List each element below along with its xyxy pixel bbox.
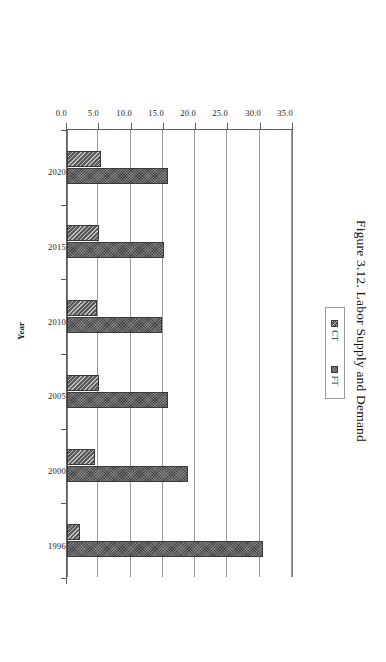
value-axis-tick xyxy=(292,123,293,130)
value-axis-tick-label: 25.0 xyxy=(227,71,228,121)
value-axis-tick-label: 10.0 xyxy=(131,71,132,121)
value-axis-tick-label-text: 35.0 xyxy=(277,108,293,118)
bar-group xyxy=(67,503,293,578)
value-axis-tick-label-text: 25.0 xyxy=(213,108,229,118)
category-axis-tick xyxy=(61,503,67,504)
figure-caption: Figure 3.12. Labor Supply and Demand xyxy=(350,0,372,662)
value-axis-tick-label: 15.0 xyxy=(163,71,164,121)
bar-ct-2015 xyxy=(67,225,99,241)
value-axis-tick-label-text: 20.0 xyxy=(180,108,196,118)
bar-ft-2005 xyxy=(67,392,168,408)
category-axis-tick xyxy=(61,130,67,131)
chart-plot-area: 0.05.010.015.020.025.030.035.0 202020152… xyxy=(5,71,305,591)
category-axis-tick xyxy=(61,578,67,579)
category-axis-tick xyxy=(61,354,67,355)
value-axis-tick-label: 30.0 xyxy=(260,71,261,121)
category-label-2020: 2020 xyxy=(48,167,66,177)
bar-ft-2020 xyxy=(67,168,168,184)
figure-caption-text: Figure 3.12. Labor Supply and Demand xyxy=(353,220,369,442)
value-axis-tick xyxy=(98,123,99,130)
bar-group xyxy=(67,354,293,429)
value-axis-tick xyxy=(163,123,164,130)
bar-ct-2010 xyxy=(67,300,97,316)
category-label-2015: 2015 xyxy=(48,242,66,252)
category-label-2005: 2005 xyxy=(48,391,66,401)
legend-entry-ct: CT xyxy=(331,320,340,341)
category-label-2000: 2000 xyxy=(48,466,66,476)
value-axis-tick-label-text: 5.0 xyxy=(88,108,99,118)
legend-label-ft: FT xyxy=(331,376,340,386)
bar-group xyxy=(67,279,293,354)
category-axis-tick xyxy=(61,205,67,206)
value-axis-tick xyxy=(195,123,196,130)
legend-entry-ft: FT xyxy=(331,366,340,386)
bar-ct-1996 xyxy=(67,524,80,540)
value-axis-tick xyxy=(227,123,228,130)
bar-group xyxy=(67,205,293,280)
bar-ft-2015 xyxy=(67,242,164,258)
value-axis-tick-label: 20.0 xyxy=(195,71,196,121)
value-axis-tick-label: 35.0 xyxy=(292,71,293,121)
value-axis-tick-label: 0.0 xyxy=(66,71,67,121)
value-axis-tick xyxy=(66,123,67,130)
bar-ft-2010 xyxy=(67,317,162,333)
legend-label-ct: CT xyxy=(331,330,340,341)
value-axis-tick xyxy=(131,123,132,130)
category-axis-tick xyxy=(61,429,67,430)
bar-ct-2005 xyxy=(67,375,99,391)
category-label-1996: 1996 xyxy=(48,541,66,551)
bar-ft-2000 xyxy=(67,466,188,482)
bars-area xyxy=(67,130,293,577)
value-axis-tick-label-text: 10.0 xyxy=(116,108,132,118)
value-axis-tick-label-text: 0.0 xyxy=(56,108,67,118)
bar-group xyxy=(67,130,293,205)
legend-swatch-icon xyxy=(332,320,339,327)
value-axis-tick-label-text: 15.0 xyxy=(148,108,164,118)
category-axis-title: Year xyxy=(16,322,26,340)
value-axis-tick-label-text: 30.0 xyxy=(245,108,261,118)
bar-group xyxy=(67,429,293,504)
figure-root: 0.05.010.015.020.025.030.035.0 202020152… xyxy=(0,0,386,662)
category-label-2010: 2010 xyxy=(48,317,66,327)
bar-ct-2020 xyxy=(67,151,101,167)
legend-swatch-icon xyxy=(332,366,339,373)
bar-ct-2000 xyxy=(67,449,95,465)
bar-ft-1996 xyxy=(67,541,263,557)
chart-legend: CTFT xyxy=(325,307,345,399)
value-axis-tick-label: 5.0 xyxy=(98,71,99,121)
category-axis-tick xyxy=(61,279,67,280)
value-axis-tick xyxy=(260,123,261,130)
